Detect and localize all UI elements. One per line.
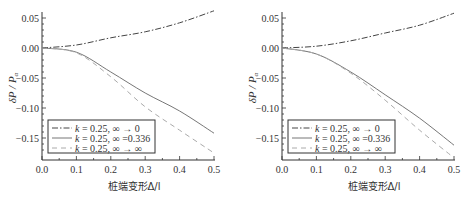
x-tick-label: 0.4 bbox=[413, 164, 426, 175]
y-tick-label: −0.10 bbox=[16, 103, 39, 114]
x-tick-label: 0.0 bbox=[276, 164, 289, 175]
x-tick-label: 0.5 bbox=[448, 164, 461, 175]
y-axis-label-sub: α bbox=[252, 72, 260, 76]
y-axis-label-main: δP / P bbox=[6, 76, 18, 103]
right-chart: 0.050.00−0.05−0.10−0.150.00.10.20.30.40.… bbox=[240, 0, 465, 199]
x-tick-label: 0.5 bbox=[208, 164, 221, 175]
right-chart-svg: 0.050.00−0.05−0.10−0.150.00.10.20.30.40.… bbox=[240, 0, 465, 199]
y-tick-label: 0.00 bbox=[22, 43, 40, 54]
y-axis-label: δP / Pα bbox=[6, 72, 20, 103]
y-axis-label-sub: α bbox=[12, 72, 20, 76]
left-chart-svg: 0.050.00−0.05−0.10−0.150.00.10.20.30.40.… bbox=[0, 0, 232, 199]
left-chart: 0.050.00−0.05−0.10−0.150.00.10.20.30.40.… bbox=[0, 0, 232, 199]
y-tick-label: 0.05 bbox=[22, 13, 40, 24]
y-tick-label: −0.15 bbox=[256, 133, 279, 144]
x-tick-label: 0.2 bbox=[105, 164, 118, 175]
series-line-dash-dot bbox=[42, 11, 214, 48]
y-axis-label-main: δP / P bbox=[246, 76, 258, 103]
y-tick-label: 0.05 bbox=[262, 13, 280, 24]
y-tick-label: −0.10 bbox=[256, 103, 279, 114]
x-tick-label: 0.4 bbox=[173, 164, 186, 175]
x-tick-label: 0.0 bbox=[36, 164, 49, 175]
x-tick-label: 0.2 bbox=[345, 164, 358, 175]
x-axis-label: 桩端变形Δ/l bbox=[348, 180, 401, 192]
x-axis-label: 桩端变形Δ/l bbox=[108, 180, 161, 192]
x-tick-label: 0.1 bbox=[70, 164, 83, 175]
legend-entry-label: k = 0.25, ∞ → ∞ bbox=[315, 143, 382, 154]
y-axis-label: δP / Pα bbox=[246, 72, 260, 103]
legend-entry-label: k = 0.25, ∞ → ∞ bbox=[75, 143, 142, 154]
series-line-dash-dot bbox=[282, 13, 454, 48]
y-tick-label: −0.15 bbox=[16, 133, 39, 144]
y-tick-label: 0.00 bbox=[262, 43, 280, 54]
x-tick-label: 0.1 bbox=[310, 164, 323, 175]
x-tick-label: 0.3 bbox=[379, 164, 392, 175]
x-tick-label: 0.3 bbox=[139, 164, 152, 175]
